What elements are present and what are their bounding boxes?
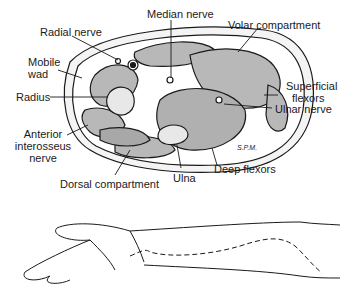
label-anterior-interosseus-line2: interosseus [14,140,72,152]
label-dorsal-compartment: Dorsal compartment [60,178,159,190]
label-mobile-wad-line2: wad [28,68,48,80]
radius-bone [107,87,135,115]
label-ulna: Ulna [173,172,196,184]
label-median-nerve: Median nerve [147,8,214,20]
label-ulnar-nerve: Ulnar nerve [275,103,332,115]
label-volar-compartment: Volar compartment [228,19,320,31]
label-anterior-interosseus-line1: Anterior [18,128,68,140]
artist-signature: S.P.M. [237,142,257,154]
incision-line [130,239,322,273]
label-radial-nerve: Radial nerve [40,26,102,38]
label-mobile-wad-line1: Mobile [28,56,60,68]
label-radius: Radius [16,91,50,103]
label-superficial-flexors-line1: Superficial [286,80,337,92]
label-anterior-interosseus-line3: nerve [18,152,68,164]
ulna-bone [158,125,188,144]
label-deep-flexors: Deep flexors [214,163,276,175]
cross-section [64,27,313,172]
forearm-outline [24,222,340,283]
